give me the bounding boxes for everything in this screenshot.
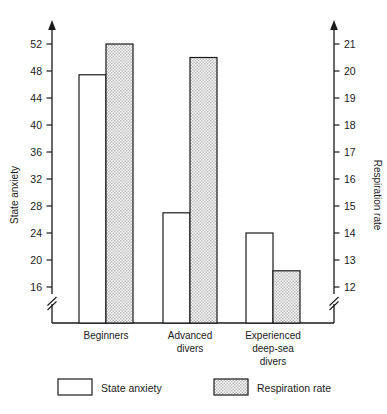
left-axis-title: State anxiety — [9, 166, 20, 224]
left-tick-label-52: 52 — [30, 38, 42, 50]
category-label-experienced-line1: Experienced — [245, 330, 301, 341]
right-tick-label-21: 21 — [344, 38, 356, 50]
left-tick-label-16: 16 — [30, 281, 42, 293]
category-label-experienced-line3: divers — [260, 356, 287, 367]
right-tick-label-13: 13 — [344, 254, 356, 266]
bar-state-anxiety-experienced-deep-sea-divers[interactable] — [246, 233, 273, 323]
legend-swatch-state-anxiety — [58, 379, 92, 395]
left-tick-label-32: 32 — [30, 173, 42, 185]
legend-label-state-anxiety: State anxiety — [101, 382, 162, 394]
left-tick-label-40: 40 — [30, 119, 42, 131]
right-tick-label-17: 17 — [344, 146, 356, 158]
category-label-advanced-divers-line1: Advanced — [168, 330, 212, 341]
bar-group-beginners — [79, 44, 133, 323]
right-tick-label-14: 14 — [344, 227, 356, 239]
legend-label-respiration-rate: Respiration rate — [257, 382, 331, 394]
category-label-experienced-line2: deep-sea — [252, 343, 294, 354]
right-tick-label-12: 12 — [344, 281, 356, 293]
legend-item-respiration-rate[interactable]: Respiration rate — [214, 379, 331, 395]
category-label-advanced-divers-line2: divers — [177, 343, 204, 354]
bar-chart: 52 48 44 40 36 32 28 24 20 16 State anxi… — [0, 0, 387, 414]
figure-container: 52 48 44 40 36 32 28 24 20 16 State anxi… — [0, 0, 387, 414]
left-tick-label-24: 24 — [30, 227, 42, 239]
right-tick-label-18: 18 — [344, 119, 356, 131]
left-tick-label-20: 20 — [30, 254, 42, 266]
right-tick-label-19: 19 — [344, 92, 356, 104]
right-axis-title: Respiration rate — [372, 160, 383, 231]
left-tick-label-44: 44 — [30, 92, 42, 104]
category-label-beginners: Beginners — [83, 330, 128, 341]
left-tick-label-36: 36 — [30, 146, 42, 158]
right-tick-label-15: 15 — [344, 200, 356, 212]
left-tick-label-28: 28 — [30, 200, 42, 212]
bar-state-anxiety-beginners[interactable] — [79, 75, 106, 323]
legend-item-state-anxiety[interactable]: State anxiety — [58, 379, 162, 395]
bar-state-anxiety-advanced-divers[interactable] — [163, 213, 190, 323]
bar-respiration-rate-beginners[interactable] — [106, 44, 133, 323]
left-tick-label-48: 48 — [30, 65, 42, 77]
bar-respiration-rate-advanced-divers[interactable] — [190, 58, 217, 324]
right-tick-label-20: 20 — [344, 65, 356, 77]
right-tick-label-16: 16 — [344, 173, 356, 185]
legend-swatch-respiration-rate — [214, 379, 248, 395]
bar-respiration-rate-experienced-deep-sea-divers[interactable] — [273, 271, 300, 323]
